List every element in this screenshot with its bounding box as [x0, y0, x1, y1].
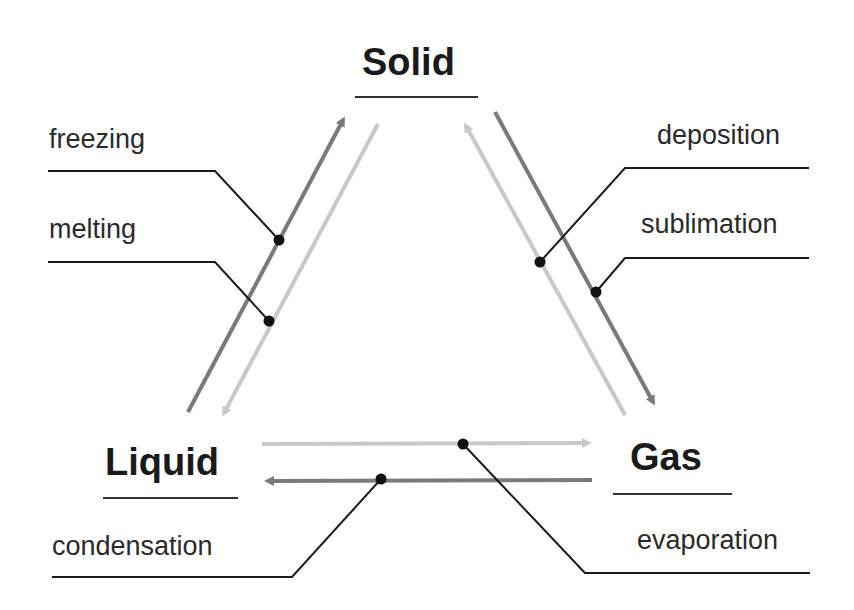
freezing-dot	[274, 235, 285, 246]
melting-dot	[264, 316, 275, 327]
condensation-arrow	[268, 480, 592, 481]
sublimation-dot	[591, 287, 602, 298]
diagram-graphics	[0, 0, 854, 610]
process-label-freezing: freezing	[49, 126, 145, 153]
condensation-leader-line	[52, 479, 381, 577]
process-label-condensation: condensation	[52, 533, 213, 560]
process-label-evaporation: evaporation	[637, 527, 778, 554]
condensation-dot	[376, 474, 387, 485]
process-label-sublimation: sublimation	[641, 211, 778, 238]
melting-arrow	[224, 124, 378, 413]
evaporation-arrow	[262, 443, 588, 444]
state-label-gas: Gas	[630, 438, 702, 476]
sublimation-leader-line	[596, 258, 809, 292]
state-label-liquid: Liquid	[105, 443, 219, 481]
melting-leader-line	[48, 262, 269, 321]
evaporation-dot	[458, 439, 469, 450]
process-label-deposition: deposition	[657, 122, 780, 149]
deposition-dot	[535, 257, 546, 268]
process-label-melting: melting	[49, 216, 136, 243]
phase-change-diagram: Solid Liquid Gas freezing melting deposi…	[0, 0, 854, 610]
state-label-solid: Solid	[362, 43, 455, 81]
freezing-arrow	[188, 120, 343, 412]
deposition-arrow	[466, 126, 625, 415]
